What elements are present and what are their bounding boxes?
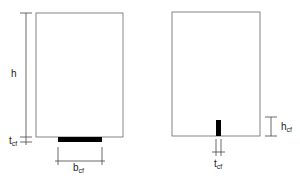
b-dimension xyxy=(55,147,105,165)
tcf-dimension-right xyxy=(212,139,225,156)
hcf-dimension xyxy=(265,117,277,136)
h-dimension xyxy=(20,13,32,145)
right-section-outline xyxy=(172,12,260,136)
label-hcf: hcf xyxy=(281,121,292,133)
right-cf-strip xyxy=(216,120,221,136)
label-tcf-left: tcf xyxy=(9,135,17,147)
left-section: h tcf bcf xyxy=(9,13,123,174)
diagram-canvas: h tcf bcf hcf tcf xyxy=(0,0,300,180)
label-tcf-right: tcf xyxy=(214,158,222,170)
label-h: h xyxy=(11,68,17,79)
label-bcf: bcf xyxy=(73,162,84,174)
left-cf-strip xyxy=(58,137,102,142)
left-section-outline xyxy=(36,13,123,137)
right-section: hcf tcf xyxy=(172,12,292,170)
